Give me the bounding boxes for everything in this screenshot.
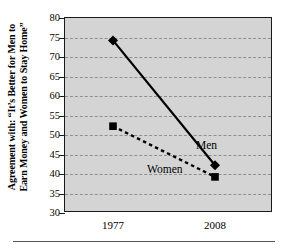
y-tick-label: 65 <box>38 70 60 81</box>
chart-figure: Agreement with: “It’s Better for Men to … <box>0 0 285 252</box>
series-label-men: Men <box>196 139 217 151</box>
y-axis-title: Agreement with: “It’s Better for Men to … <box>0 0 36 214</box>
y-tick-label: 40 <box>38 168 60 179</box>
x-tick-label: 2008 <box>204 219 226 231</box>
y-tick-label: 60 <box>38 90 60 101</box>
gridline <box>65 116 271 117</box>
x-tick-label: 1977 <box>102 219 124 231</box>
y-tick-label: 75 <box>38 31 60 42</box>
gridline <box>65 38 271 39</box>
y-tick-label: 80 <box>38 12 60 23</box>
gridline <box>65 57 271 58</box>
gridline <box>65 135 271 136</box>
y-tick-label: 35 <box>38 187 60 198</box>
y-axis-title-text: Agreement with: “It’s Better for Men to … <box>6 22 31 191</box>
gridline <box>65 96 271 97</box>
gridline <box>65 77 271 78</box>
gridline <box>65 194 271 195</box>
y-tick-label: 50 <box>38 129 60 140</box>
y-tick-label: 70 <box>38 51 60 62</box>
gridline <box>65 155 271 156</box>
y-tick-label: 45 <box>38 148 60 159</box>
plot-area <box>64 17 272 212</box>
y-tick-label: 30 <box>38 207 60 218</box>
y-tick-label: 55 <box>38 109 60 120</box>
bottom-divider <box>13 241 275 242</box>
y-tick-mark <box>59 18 65 19</box>
y-tick-mark <box>59 213 65 214</box>
y-axis-tick-labels: 8075706560555045403530 <box>36 0 60 252</box>
series-label-women: Women <box>147 163 182 175</box>
